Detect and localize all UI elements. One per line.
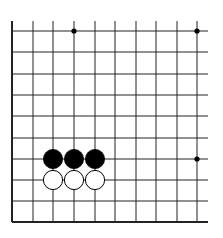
white-stone[interactable] [43,170,62,189]
go-board[interactable] [0,0,223,238]
white-stone[interactable] [85,170,104,189]
white-stone[interactable] [64,170,83,189]
black-stone[interactable] [43,149,62,168]
board-grid [12,21,208,222]
black-stone[interactable] [64,149,83,168]
star-point-icon [194,156,199,161]
star-point-icon [194,28,199,33]
star-point-icon [71,28,76,33]
black-stone[interactable] [85,149,104,168]
